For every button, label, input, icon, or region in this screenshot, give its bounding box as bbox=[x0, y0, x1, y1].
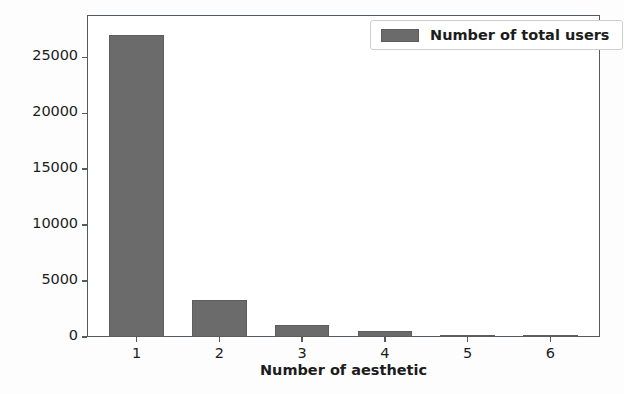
x-axis-tick-label: 6 bbox=[530, 345, 570, 361]
x-axis-tick-mark bbox=[219, 337, 221, 342]
x-axis-tick-label: 5 bbox=[448, 345, 488, 361]
y-axis-tick-label: 25000 bbox=[32, 47, 78, 63]
x-axis-tick-mark bbox=[384, 337, 386, 342]
y-axis-tick-mark bbox=[82, 280, 87, 282]
x-axis-tick-label: 4 bbox=[365, 345, 405, 361]
x-axis-tick-mark bbox=[467, 337, 469, 342]
bar-chart-figure: 0500010000150002000025000 123456 Number … bbox=[0, 0, 624, 394]
x-axis-tick-label: 2 bbox=[199, 345, 239, 361]
y-axis: 0500010000150002000025000 bbox=[0, 0, 87, 394]
x-axis-tick-mark bbox=[550, 337, 552, 342]
y-axis-tick-label: 20000 bbox=[32, 103, 78, 119]
y-axis-tick-label: 10000 bbox=[32, 215, 78, 231]
x-axis-tick-mark bbox=[301, 337, 303, 342]
y-axis-tick-label: 15000 bbox=[32, 159, 78, 175]
plot-area bbox=[87, 15, 600, 337]
x-axis-title: Number of aesthetic bbox=[87, 362, 600, 378]
legend-color-swatch bbox=[381, 29, 419, 42]
x-axis-tick-mark bbox=[136, 337, 138, 342]
y-axis-tick-mark bbox=[82, 57, 87, 59]
y-axis-tick-mark bbox=[82, 113, 87, 115]
y-axis-tick-mark bbox=[82, 168, 87, 170]
x-axis-tick-label: 3 bbox=[282, 345, 322, 361]
x-axis-tick-label: 1 bbox=[117, 345, 157, 361]
legend-label: Number of total users bbox=[430, 27, 610, 43]
y-axis-tick-label: 5000 bbox=[41, 271, 78, 287]
y-axis-tick-mark bbox=[82, 224, 87, 226]
chart-legend: Number of total users bbox=[370, 20, 623, 50]
